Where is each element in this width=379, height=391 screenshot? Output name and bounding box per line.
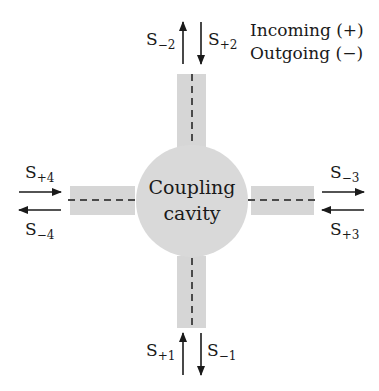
label-top-incoming: S+2 bbox=[208, 29, 237, 52]
legend-incoming: Incoming (+) bbox=[250, 20, 364, 40]
coupling-cavity-diagram: Coupling cavity Incoming (+) Outgoing (−… bbox=[0, 0, 379, 391]
label-bottom-outgoing: S−1 bbox=[207, 340, 236, 363]
center-label-line1: Coupling bbox=[149, 176, 236, 198]
label-top-outgoing: S−2 bbox=[146, 29, 175, 52]
label-bottom-incoming: S+1 bbox=[146, 340, 175, 363]
legend-outgoing: Outgoing (−) bbox=[250, 43, 363, 63]
waveguide-bottom bbox=[177, 256, 206, 328]
center-label-line2: cavity bbox=[163, 202, 220, 224]
label-right-incoming: S+3 bbox=[330, 219, 359, 242]
coupling-cavity bbox=[136, 145, 248, 257]
waveguide-left bbox=[70, 186, 135, 215]
label-left-incoming: S+4 bbox=[25, 162, 55, 185]
label-left-outgoing: S−4 bbox=[25, 219, 55, 242]
label-right-outgoing: S−3 bbox=[330, 162, 359, 185]
